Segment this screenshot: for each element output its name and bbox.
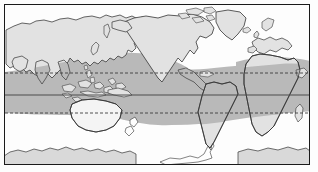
world-map-figure: Equator Tropic of Cancer Tropic of Capri…	[0, 0, 318, 172]
landmass-antarctica-east	[238, 147, 310, 166]
world-map-canvas	[0, 0, 318, 172]
